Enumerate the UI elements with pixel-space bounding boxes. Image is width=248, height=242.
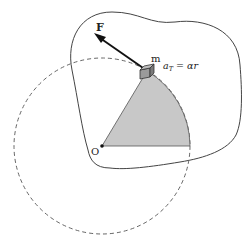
tangential-acceleration-label: aT = αr (163, 60, 199, 73)
angular-sector (102, 71, 190, 146)
origin-point (100, 144, 104, 148)
force-label: F (96, 21, 104, 34)
force-arrow (100, 38, 146, 70)
rotation-diagram: F m aT = αr O (0, 0, 248, 242)
origin-label: O (91, 146, 99, 157)
mass-label: m (151, 53, 161, 64)
